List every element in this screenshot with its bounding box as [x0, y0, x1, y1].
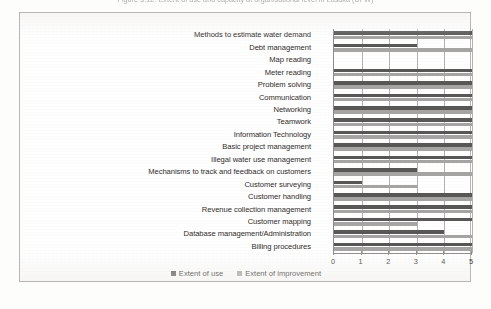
bar-improvement: [334, 135, 472, 139]
category-label: Mechanisms to track and feedback on cust…: [22, 166, 316, 178]
bar-rows: [334, 29, 472, 253]
bar-row: [334, 54, 472, 66]
bar-row: [334, 153, 472, 165]
category-label: Problem solving: [22, 79, 316, 91]
legend-label: Extent of use: [179, 270, 223, 278]
legend-label: Extent of improvement: [245, 270, 321, 278]
bar-improvement: [334, 36, 472, 40]
bar-row: [334, 191, 472, 203]
category-label: Illegal water use management: [22, 153, 316, 165]
bar-improvement: [334, 48, 472, 52]
bar-row: [334, 129, 472, 141]
chart-legend: Extent of useExtent of improvement: [20, 270, 472, 278]
axis-tick-label: 3: [414, 257, 418, 266]
bar-use: [334, 81, 472, 85]
bar-use: [334, 31, 472, 35]
bar-row: [334, 66, 472, 78]
bar-row: [334, 240, 472, 252]
bar-improvement: [334, 147, 472, 151]
bar-improvement: [334, 172, 472, 176]
bar-use: [334, 131, 472, 135]
category-label: Methods to estimate water demand: [22, 29, 316, 41]
bar-use: [334, 143, 472, 147]
bar-row: [334, 91, 472, 103]
category-label: Basic project management: [22, 141, 316, 153]
category-label: Teamwork: [22, 116, 316, 128]
bar-use: [334, 181, 362, 185]
bar-use: [334, 118, 472, 122]
bar-improvement: [334, 123, 472, 127]
legend-swatch-icon: [171, 271, 176, 276]
bar-row: [334, 228, 472, 240]
bar-use: [334, 106, 472, 110]
bar-improvement: [334, 185, 417, 189]
gridline: [472, 29, 473, 253]
bar-use: [334, 218, 472, 222]
bar-improvement: [334, 110, 472, 114]
axis-tick-label: 5: [469, 257, 473, 266]
category-label: Communication: [22, 91, 316, 103]
bar-row: [334, 29, 472, 41]
category-label: Meter reading: [22, 66, 316, 78]
legend-item: Extent of use: [171, 270, 223, 278]
bar-use: [334, 44, 417, 48]
bar-improvement: [334, 85, 472, 89]
bar-improvement: [334, 210, 472, 214]
category-label: Customer mapping: [22, 216, 316, 228]
category-label: Debt management: [22, 41, 316, 53]
bar-improvement: [334, 247, 472, 251]
bar-row: [334, 141, 472, 153]
bar-row: [334, 116, 472, 128]
category-label: Billing procedures: [22, 240, 316, 252]
bar-use: [334, 205, 472, 209]
category-label: Information Technology: [22, 129, 316, 141]
category-label: Map reading: [22, 54, 316, 66]
bar-improvement: [334, 222, 417, 226]
chart-frame: Methods to estimate water demandDebt man…: [19, 12, 471, 282]
bar-use: [334, 168, 417, 172]
bar-use: [334, 193, 472, 197]
bar-row: [334, 41, 472, 53]
legend-swatch-icon: [237, 271, 242, 276]
bar-improvement: [334, 197, 472, 201]
bar-improvement: [334, 73, 472, 77]
category-label: Customer handling: [22, 191, 316, 203]
bar-row: [334, 216, 472, 228]
legend-item: Extent of improvement: [237, 270, 321, 278]
axis-tick-label: 2: [386, 257, 390, 266]
bar-use: [334, 69, 472, 73]
bar-row: [334, 79, 472, 91]
bar-use: [334, 243, 472, 247]
value-axis-tick-labels: 012345: [333, 257, 471, 267]
bar-row: [334, 178, 472, 190]
bar-use: [334, 94, 472, 98]
plot-area: [333, 29, 472, 253]
bar-row: [334, 166, 472, 178]
category-label: Networking: [22, 104, 316, 116]
axis-tick-label: 1: [359, 257, 363, 266]
axis-tick-label: 4: [441, 257, 445, 266]
category-axis-labels: Methods to estimate water demandDebt man…: [22, 29, 316, 253]
bar-use: [334, 230, 444, 234]
bar-row: [334, 203, 472, 215]
axis-tick-label: 0: [331, 257, 335, 266]
bar-improvement: [334, 98, 472, 102]
bar-improvement: [334, 160, 472, 164]
bar-row: [334, 104, 472, 116]
bar-improvement: [334, 235, 472, 239]
bar-use: [334, 156, 472, 160]
category-label: Database management/Administration: [22, 228, 316, 240]
category-label: Customer surveying: [22, 178, 316, 190]
figure-caption: Figure 5.12: Extent of use and capacity …: [0, 0, 491, 6]
category-label: Revenue collection management: [22, 203, 316, 215]
bar-chart: Methods to estimate water demandDebt man…: [20, 13, 470, 281]
